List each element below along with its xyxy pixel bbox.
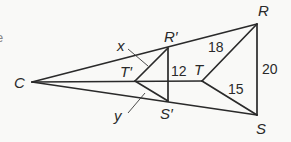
- label-R: R: [258, 2, 269, 19]
- label-T: T: [194, 61, 205, 78]
- label-S-prime: S′: [160, 105, 174, 122]
- segment-CT: [32, 81, 202, 82]
- label-S: S: [256, 120, 266, 137]
- diagram-canvas: C R S T R′ S′ T′ x y 12 18 15 20 e: [0, 0, 291, 142]
- segment-R-prime-T-prime: [135, 48, 168, 81]
- label-R-prime: R′: [164, 28, 179, 45]
- length-RT: 18: [208, 39, 224, 55]
- cropped-text-fragment: e: [0, 30, 3, 45]
- label-y: y: [113, 107, 123, 124]
- length-RS: 20: [262, 61, 278, 77]
- label-x: x: [116, 37, 125, 54]
- label-T-prime: T′: [120, 63, 133, 80]
- length-ST: 15: [228, 81, 244, 97]
- length-R-prime-S-prime: 12: [171, 63, 187, 79]
- label-C: C: [14, 74, 25, 91]
